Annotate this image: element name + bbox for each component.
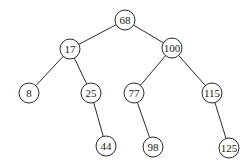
nodes-layer: 6817100825771154498125: [19, 10, 239, 158]
edge-25-44: [94, 103, 104, 137]
tree-node-68: 68: [115, 10, 135, 30]
tree-diagram: 6817100825771154498125: [0, 0, 249, 168]
edge-68-17: [79, 25, 116, 45]
tree-node-77: 77: [124, 83, 144, 103]
tree-canvas: 6817100825771154498125: [0, 0, 249, 168]
edge-115-125: [215, 103, 226, 139]
node-label: 115: [204, 87, 221, 99]
tree-node-25: 25: [81, 83, 101, 103]
node-label: 68: [120, 14, 132, 26]
tree-node-17: 17: [60, 39, 80, 59]
tree-node-44: 44: [96, 136, 116, 156]
tree-node-125: 125: [219, 138, 239, 158]
node-label: 100: [164, 42, 181, 54]
node-label: 44: [101, 140, 113, 152]
edge-17-25: [74, 58, 86, 84]
node-label: 125: [221, 142, 238, 154]
node-label: 17: [65, 43, 77, 55]
tree-node-115: 115: [202, 83, 222, 103]
edge-68-100: [134, 25, 164, 43]
node-label: 98: [148, 141, 160, 153]
tree-node-100: 100: [162, 38, 182, 58]
tree-node-98: 98: [143, 137, 163, 157]
node-label: 77: [129, 87, 141, 99]
edge-17-8: [36, 56, 63, 85]
node-label: 25: [86, 87, 98, 99]
node-label: 8: [26, 87, 32, 99]
edge-77-98: [137, 102, 149, 137]
edge-100-77: [140, 56, 165, 86]
edge-100-115: [179, 55, 206, 85]
tree-node-8: 8: [19, 83, 39, 103]
